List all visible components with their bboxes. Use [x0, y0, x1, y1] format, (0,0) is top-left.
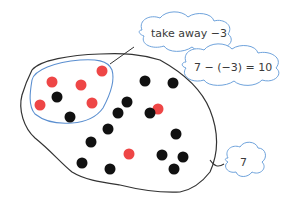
- black-counters: [52, 76, 189, 175]
- black-counter: [52, 92, 63, 103]
- black-counter: [113, 108, 124, 119]
- equation-cloud: 7 − (−3) = 10: [182, 44, 279, 86]
- black-counter: [178, 152, 189, 163]
- total-cloud: 7: [225, 142, 265, 176]
- black-counter: [169, 164, 180, 175]
- black-counter: [103, 124, 114, 135]
- red-counter: [97, 66, 108, 77]
- black-counter: [86, 137, 97, 148]
- red-counter: [47, 77, 58, 88]
- red-counter: [76, 80, 87, 91]
- red-counter: [35, 100, 46, 111]
- black-counter: [77, 158, 88, 169]
- black-counter: [105, 164, 116, 175]
- black-counter: [171, 129, 182, 140]
- counters-diagram: take away −3 7 − (−3) = 10 7: [0, 0, 299, 209]
- black-counter: [65, 112, 76, 123]
- loop-connector: [110, 47, 134, 64]
- red-counter: [124, 149, 135, 160]
- black-counter: [140, 76, 151, 87]
- black-counter: [168, 78, 179, 89]
- black-counter: [145, 108, 156, 119]
- equation-label: 7 − (−3) = 10: [194, 61, 272, 74]
- red-counter: [87, 98, 98, 109]
- black-counter: [157, 150, 168, 161]
- black-counter: [122, 97, 133, 108]
- total-label: 7: [240, 156, 247, 169]
- take-away-label: take away −3: [151, 27, 227, 40]
